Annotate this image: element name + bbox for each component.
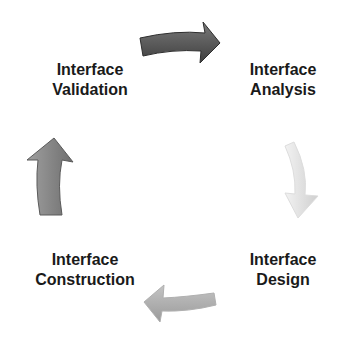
arrow-down-icon (285, 142, 318, 218)
stage-design-line2: Design (228, 270, 338, 290)
stage-construction: Interface Construction (20, 250, 150, 290)
stage-construction-line2: Construction (20, 270, 150, 290)
arrow-up-icon (27, 138, 73, 215)
stage-analysis-line2: Analysis (228, 80, 338, 100)
stage-design: Interface Design (228, 250, 338, 290)
stage-design-line1: Interface (228, 250, 338, 270)
stage-analysis-line1: Interface (228, 60, 338, 80)
cycle-arrows (0, 0, 354, 352)
stage-validation-line1: Interface (30, 60, 150, 80)
stage-construction-line1: Interface (20, 250, 150, 270)
stage-validation-line2: Validation (30, 80, 150, 100)
stage-validation: Interface Validation (30, 60, 150, 100)
arrow-right-icon (140, 22, 220, 63)
arrow-left-icon (144, 285, 216, 322)
stage-analysis: Interface Analysis (228, 60, 338, 100)
